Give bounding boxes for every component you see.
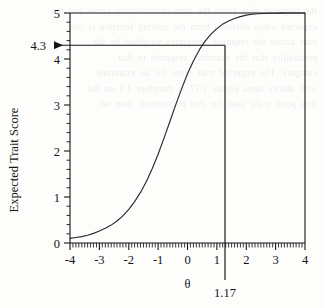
y-axis-title: Expected Trait Score: [7, 107, 21, 212]
y-major-ticks: [64, 13, 70, 243]
x-tick-label-1: 1: [214, 253, 220, 267]
x-axis-title: θ: [185, 277, 191, 291]
expected-score-value-label: 4.3: [30, 39, 46, 53]
expected-trait-score-figure: the response of a given the item charact…: [0, 0, 323, 308]
x-tick-label-neg4: -4: [65, 253, 76, 267]
y-tick-label-3: 3: [54, 99, 60, 113]
y-tick-label-2: 2: [54, 145, 60, 159]
theta-value-label: 1.17: [214, 286, 236, 300]
y-tick-label-5: 5: [54, 7, 60, 21]
x-tick-label-neg2: -2: [124, 253, 134, 267]
y-tick-label-0: 0: [54, 237, 60, 251]
x-tick-label-2: 2: [243, 253, 249, 267]
x-tick-labels: -4 -3 -2 -1 0 1 2 3 4: [65, 253, 309, 267]
x-tick-label-neg1: -1: [153, 253, 163, 267]
x-tick-label-neg3: -3: [94, 253, 104, 267]
y-tick-label-4: 4: [54, 53, 61, 67]
x-tick-label-4: 4: [302, 253, 309, 267]
chart-canvas: 5 4 3 2 1 0 -4 -3 -2 -1 0 1 2 3 4 θ Expe…: [0, 0, 323, 308]
expected-trait-score-curve: [70, 13, 305, 238]
x-tick-label-3: 3: [272, 253, 278, 267]
y-tick-labels: 5 4 3 2 1 0: [54, 7, 61, 251]
x-tick-label-0: 0: [184, 253, 190, 267]
y-tick-label-1: 1: [54, 191, 60, 205]
